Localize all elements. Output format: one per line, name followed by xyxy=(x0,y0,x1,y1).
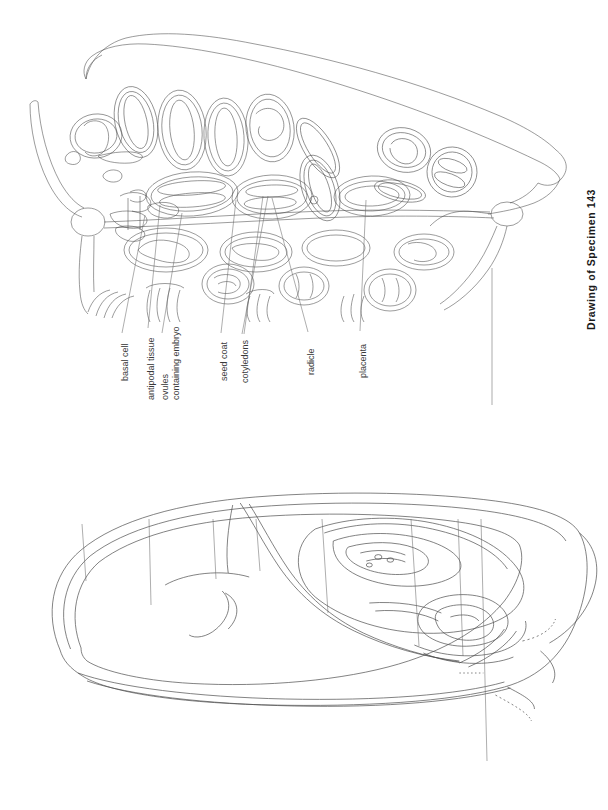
figure-sheet: Drawing of Specimen 143 basal cell antip… xyxy=(0,0,608,810)
leader-lines-142 xyxy=(0,405,608,810)
label-cotyledons: cotyledons xyxy=(240,340,251,383)
figure-specimen-143: Drawing of Specimen 143 basal cell antip… xyxy=(0,0,608,405)
label-placenta: placenta xyxy=(358,344,369,378)
label-antipodal-tissue: antipodal tissue xyxy=(146,337,157,400)
label-radicle-143: radicle xyxy=(306,348,317,375)
label-ovules-containing-embryo: ovules containing embryo xyxy=(160,326,181,400)
figure-specimen-142: Drawing of Specimen 142 united integumen… xyxy=(0,405,608,810)
leader-lines-143 xyxy=(122,196,366,334)
caption-specimen-143: Drawing of Specimen 143 xyxy=(585,189,597,330)
label-seed-coat: seed coat xyxy=(219,342,230,381)
label-basal-cell: basal cell xyxy=(120,343,131,381)
specimen-143-illustration xyxy=(0,0,608,405)
